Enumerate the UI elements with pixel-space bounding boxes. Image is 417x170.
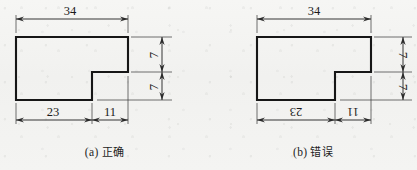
dimension-value-bottom-right-b: 11	[347, 105, 359, 119]
dimension-value-right-lower-a: 7	[147, 84, 161, 90]
figure-panel-b: 34 23 11 7 7 (b)错误	[209, 0, 417, 170]
part-outline-a	[16, 37, 128, 100]
dimension-value-bottom-left-b: 23	[290, 105, 303, 119]
dimension-value-right-lower-b: 7	[396, 84, 410, 90]
dimension-lines-b	[257, 19, 403, 120]
extension-lines-b	[257, 15, 412, 124]
caption-label-b: (b)	[293, 146, 307, 158]
caption-label-a: (a)	[85, 146, 99, 158]
dimension-value-top-width-a: 34	[64, 4, 77, 18]
dimension-value-top-width-b: 34	[308, 4, 321, 18]
caption-b: (b)错误	[209, 143, 417, 159]
caption-word-b: 错误	[310, 146, 333, 159]
dimension-value-right-upper-b: 7	[396, 52, 410, 58]
extension-lines-a	[16, 15, 172, 124]
figure-panel-a: 34 23 11 7 7 (a)正确	[0, 0, 209, 170]
dimension-value-bottom-right-a: 11	[104, 105, 116, 119]
technical-drawing-b: 34 23 11 7 7	[209, 0, 417, 143]
dimension-value-right-upper-a: 7	[147, 52, 161, 58]
caption-word-a: 正确	[102, 146, 125, 159]
dimension-value-bottom-left-a: 23	[47, 105, 60, 119]
part-outline-b	[257, 37, 371, 100]
dimension-lines-a	[16, 19, 162, 120]
caption-a: (a)正确	[0, 143, 209, 159]
technical-drawing-a: 34 23 11 7 7	[0, 0, 209, 143]
